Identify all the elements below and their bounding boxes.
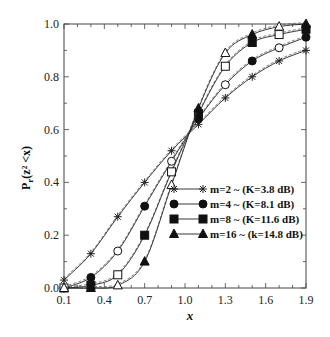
x-tick-label: 1.9 — [299, 293, 314, 307]
legend-item: m=2 ~ (K=3.8 dB) — [170, 183, 295, 196]
series-circle — [60, 33, 310, 292]
y-tick-label: 0.2 — [44, 228, 59, 242]
y-tick-label: 0.0 — [44, 281, 59, 295]
x-tick-label: 0.1 — [57, 293, 72, 307]
series-asterisk — [60, 46, 310, 284]
y-tick-label: 0.6 — [44, 123, 59, 137]
chart-canvas: 0.10.40.71.01.31.61.90.00.20.40.60.81.0x… — [0, 0, 330, 337]
svg-text:Pr(z² <x): Pr(z² <x) — [19, 146, 35, 190]
legend-item: m=8 ~ (K=11.6 dB) — [170, 213, 299, 226]
legend-label: m=4 ~ (K=8.1 dB) — [210, 198, 295, 211]
legend-label: m=2 ~ (K=3.8 dB) — [210, 183, 295, 196]
y-axis-title: Pr(z² <x) — [19, 146, 35, 190]
chart-figure: 0.10.40.71.01.31.61.90.00.20.40.60.81.0x… — [0, 0, 330, 337]
legend-label: m=16 ~ (k=14.8 dB) — [210, 228, 303, 241]
y-tick-label: 1.0 — [44, 17, 59, 31]
y-tick-label: 0.8 — [44, 70, 59, 84]
y-tick-label: 0.4 — [44, 175, 59, 189]
plot-area — [64, 24, 306, 288]
x-tick-label: 1.3 — [218, 293, 233, 307]
x-axis-title: x — [186, 308, 194, 323]
legend-label: m=8 ~ (K=11.6 dB) — [210, 213, 299, 226]
x-tick-label: 0.4 — [97, 293, 112, 307]
legend: m=2 ~ (K=3.8 dB)m=4 ~ (K=8.1 dB)m=8 ~ (K… — [170, 183, 304, 241]
legend-item: m=16 ~ (k=14.8 dB) — [170, 228, 304, 241]
x-tick-label: 1.6 — [258, 293, 273, 307]
x-tick-label: 1.0 — [178, 293, 193, 307]
legend-item: m=4 ~ (K=8.1 dB) — [170, 198, 295, 211]
x-tick-label: 0.7 — [137, 293, 152, 307]
series-square — [60, 25, 310, 292]
series-triangle — [60, 19, 311, 292]
